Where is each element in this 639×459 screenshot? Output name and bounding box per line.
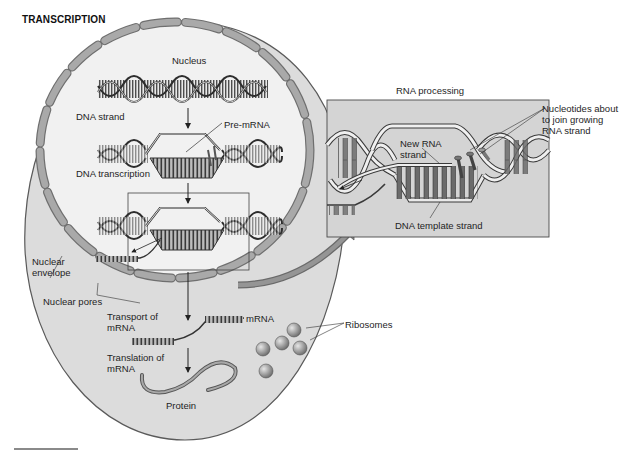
label-nuclear-envelope: Nuclear envelope — [32, 256, 71, 278]
label-dna-transcription: DNA transcription — [76, 168, 150, 179]
transcription-diagram: TRANSCRIPTION Nucleus DNA strand Pre-mRN… — [0, 0, 639, 459]
diagram-canvas — [0, 0, 639, 459]
inset-title: RNA processing — [396, 85, 464, 96]
label-ribosomes: Ribosomes — [345, 319, 393, 330]
label-new-rna-strand: New RNA strand — [400, 138, 442, 160]
label-pre-mrna: Pre-mRNA — [224, 119, 270, 130]
label-nucleotides: Nucleotides about to join growing RNA st… — [542, 103, 618, 136]
footer-rule — [14, 448, 78, 450]
label-translation-of-mrna: Translation of mRNA — [107, 352, 164, 374]
label-mrna: mRNA — [246, 313, 274, 324]
label-dna-strand: DNA strand — [76, 111, 125, 122]
label-protein: Protein — [166, 400, 196, 411]
rna-processing-inset — [327, 100, 549, 237]
label-dna-template-strand: DNA template strand — [395, 220, 483, 231]
diagram-title: TRANSCRIPTION — [22, 14, 106, 25]
label-nucleus: Nucleus — [172, 55, 206, 66]
label-transport-of-mrna: Transport of mRNA — [107, 311, 158, 333]
label-nuclear-pores: Nuclear pores — [43, 296, 102, 307]
